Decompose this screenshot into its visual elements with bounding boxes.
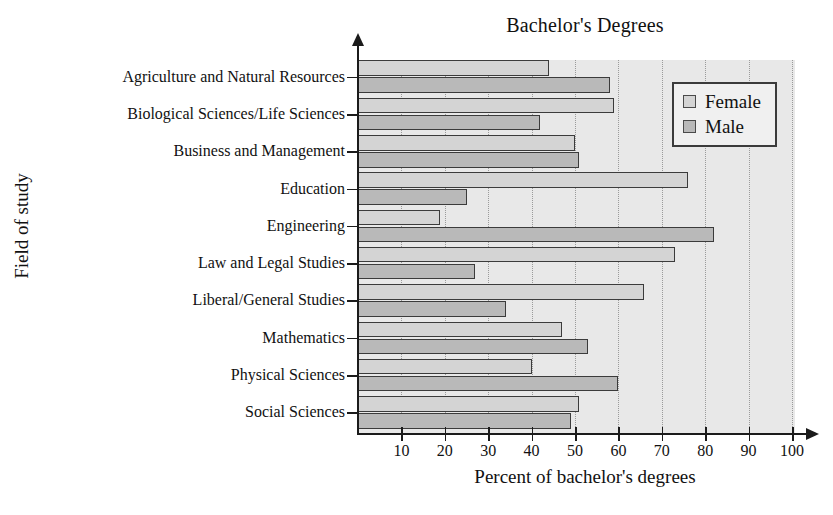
x-axis-tick [445, 427, 447, 441]
x-axis-tick-label: 50 [555, 442, 595, 460]
y-axis-tick-label: Liberal/General Studies [0, 291, 345, 309]
y-axis-tick [347, 375, 359, 377]
bar-male [358, 264, 475, 280]
x-axis-tick [618, 427, 620, 441]
x-axis-tick-label: 40 [512, 442, 552, 460]
y-axis-tick-label: Business and Management [0, 142, 345, 160]
x-axis-tick-label: 10 [381, 442, 421, 460]
bar-female [358, 210, 440, 226]
x-axis-tick [749, 427, 751, 441]
gridline [792, 60, 794, 433]
x-axis-tick [575, 427, 577, 441]
legend-swatch-icon [683, 120, 696, 133]
bar-female [358, 60, 549, 76]
bar-male [358, 339, 588, 355]
chart-title: Bachelor's Degrees [455, 14, 715, 37]
bar-male [358, 301, 506, 317]
bar-male [358, 189, 467, 205]
y-axis-tick [347, 338, 359, 340]
y-axis-tick-label: Education [0, 180, 345, 198]
legend-swatch-icon [683, 95, 696, 108]
x-axis-tick-label: 100 [772, 442, 812, 460]
y-axis-tick [347, 77, 359, 79]
y-axis-tick-label: Mathematics [0, 329, 345, 347]
bar-female [358, 172, 688, 188]
y-axis-tick [347, 263, 359, 265]
y-axis-arrow-icon [352, 33, 364, 46]
x-axis-tick [705, 427, 707, 441]
legend: FemaleMale [672, 82, 777, 147]
bar-male [358, 77, 610, 93]
y-axis-tick [347, 114, 359, 116]
x-axis-tick-label: 90 [729, 442, 769, 460]
legend-label: Male [705, 117, 744, 136]
legend-label: Female [705, 92, 761, 111]
y-axis-tick [347, 189, 359, 191]
bar-male [358, 227, 714, 243]
bar-female [358, 322, 562, 338]
x-axis-tick-label: 60 [598, 442, 638, 460]
x-axis-line [357, 433, 809, 435]
x-axis-arrow-icon [806, 428, 819, 440]
y-axis-tick [347, 300, 359, 302]
x-axis-tick [401, 427, 403, 441]
bar-female [358, 247, 675, 263]
x-axis-tick [532, 427, 534, 441]
y-axis-tick [347, 151, 359, 153]
x-axis-tick [792, 427, 794, 441]
x-axis-tick-label: 20 [425, 442, 465, 460]
bar-female [358, 284, 644, 300]
legend-item-female[interactable]: Female [683, 89, 761, 114]
bar-male [358, 152, 579, 168]
x-axis-tick-label: 30 [468, 442, 508, 460]
bar-female [358, 396, 579, 412]
bar-male [358, 376, 618, 392]
y-axis-tick-label: Law and Legal Studies [0, 254, 345, 272]
bar-male [358, 115, 540, 131]
y-axis-tick-label: Engineering [0, 217, 345, 235]
x-axis-tick-label: 70 [642, 442, 682, 460]
bar-chart-figure: Bachelor's Degrees 102030405060708090100… [0, 0, 833, 515]
bar-female [358, 359, 532, 375]
x-axis-tick [488, 427, 490, 441]
y-axis-tick-label: Agriculture and Natural Resources [0, 68, 345, 86]
x-axis-tick-label: 80 [685, 442, 725, 460]
bar-female [358, 98, 614, 114]
y-axis-title: Field of study [11, 126, 33, 326]
y-axis-tick [347, 226, 359, 228]
bar-male [358, 413, 571, 429]
y-axis-tick [347, 412, 359, 414]
y-axis-tick-label: Biological Sciences/Life Sciences [0, 105, 345, 123]
x-axis-title: Percent of bachelor's degrees [360, 466, 810, 488]
legend-item-male[interactable]: Male [683, 114, 761, 139]
bar-female [358, 135, 575, 151]
x-axis-tick [662, 427, 664, 441]
y-axis-tick-label: Physical Sciences [0, 366, 345, 384]
y-axis-tick-label: Social Sciences [0, 403, 345, 421]
